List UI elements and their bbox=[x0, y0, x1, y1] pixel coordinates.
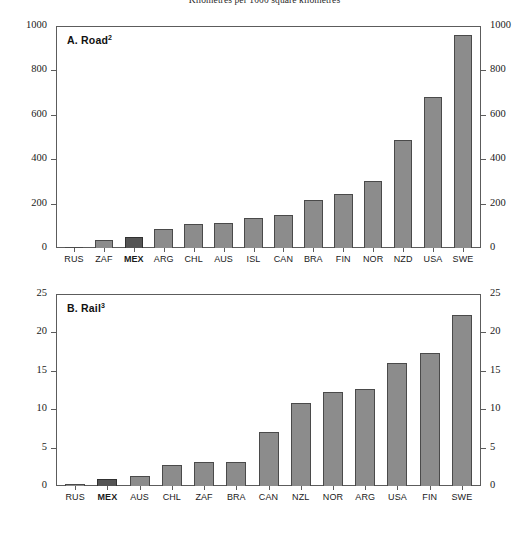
x-tick-label-road-usa: USA bbox=[418, 254, 448, 264]
bar-road-chl bbox=[184, 224, 203, 248]
bar-road-mex bbox=[125, 237, 144, 248]
y-tick-label-road-left-800: 800 bbox=[31, 64, 47, 75]
x-axis-labels-road: RUSZAFMEXARGCHLAUSISLCANBRAFINNORNZDUSAS… bbox=[56, 248, 481, 264]
bar-slot bbox=[119, 26, 149, 248]
x-tick-mark bbox=[164, 248, 165, 252]
y-tick-label-rail-right-15: 15 bbox=[490, 365, 501, 376]
x-tick-mark bbox=[236, 486, 237, 490]
bar-road-arg bbox=[154, 229, 173, 248]
x-tick-mark bbox=[224, 248, 225, 252]
bar-slot bbox=[418, 26, 448, 248]
bar-road-isl bbox=[244, 218, 263, 248]
bar-slot bbox=[317, 294, 349, 486]
y-tick-label-rail-right-20: 20 bbox=[490, 326, 501, 337]
y-tick-mark-right bbox=[481, 70, 486, 71]
y-tick-label-rail-right-10: 10 bbox=[490, 403, 501, 414]
bar-slot bbox=[149, 26, 179, 248]
x-tick-mark bbox=[172, 486, 173, 490]
x-tick-label-rail-nzl: NZL bbox=[285, 492, 317, 502]
bar-road-zaf bbox=[95, 240, 114, 248]
x-tick-label-rail-rus: RUS bbox=[59, 492, 91, 502]
bar-road-nor bbox=[364, 181, 383, 248]
x-tick-label-rail-can: CAN bbox=[252, 492, 284, 502]
x-tick-mark bbox=[75, 486, 76, 490]
x-tick-label-road-arg: ARG bbox=[149, 254, 179, 264]
x-tick-mark bbox=[204, 486, 205, 490]
bar-slot bbox=[381, 294, 413, 486]
x-tick-mark bbox=[283, 248, 284, 252]
x-tick-label-road-can: CAN bbox=[268, 254, 298, 264]
y-tick-label-rail-right-25: 25 bbox=[490, 288, 501, 299]
y-tick-label-rail-left-20: 20 bbox=[37, 326, 48, 337]
y-tick-mark-left bbox=[51, 115, 56, 116]
y-tick-label-road-right-600: 600 bbox=[490, 109, 506, 120]
bar-rail-aus bbox=[130, 476, 150, 486]
x-tick-mark bbox=[365, 486, 366, 490]
y-tick-label-road-left-1000: 1000 bbox=[26, 20, 47, 31]
bar-rail-chl bbox=[162, 465, 182, 487]
figure-super-title: Kilometres per 1000 square kilometres bbox=[0, 0, 529, 5]
x-tick-mark bbox=[333, 486, 334, 490]
bar-slot bbox=[298, 26, 328, 248]
x-tick-label-rail-nor: NOR bbox=[317, 492, 349, 502]
x-tick-label-rail-swe: SWE bbox=[446, 492, 478, 502]
x-tick-mark bbox=[403, 248, 404, 252]
x-tick-label-rail-fin: FIN bbox=[414, 492, 446, 502]
x-tick-label-rail-chl: CHL bbox=[156, 492, 188, 502]
bar-group-rail bbox=[56, 294, 481, 486]
bar-slot bbox=[285, 294, 317, 486]
x-tick-label-rail-mex: MEX bbox=[91, 492, 123, 502]
bar-rail-zaf bbox=[194, 462, 214, 486]
x-tick-label-rail-usa: USA bbox=[381, 492, 413, 502]
x-tick-label-road-bra: BRA bbox=[298, 254, 328, 264]
x-tick-mark bbox=[107, 486, 108, 490]
bar-slot bbox=[156, 294, 188, 486]
bar-road-usa bbox=[424, 97, 443, 248]
bar-slot bbox=[239, 26, 269, 248]
bar-rail-usa bbox=[387, 363, 407, 486]
x-tick-mark bbox=[462, 486, 463, 490]
bar-road-bra bbox=[304, 200, 323, 248]
bar-slot bbox=[59, 26, 89, 248]
bar-rail-mex bbox=[97, 479, 117, 486]
bar-slot bbox=[123, 294, 155, 486]
x-tick-mark bbox=[373, 248, 374, 252]
bar-slot bbox=[446, 294, 478, 486]
x-tick-mark bbox=[343, 248, 344, 252]
bar-slot bbox=[188, 294, 220, 486]
y-tick-mark-left bbox=[51, 332, 56, 333]
bar-slot bbox=[59, 294, 91, 486]
y-tick-mark-right bbox=[481, 371, 486, 372]
x-tick-mark bbox=[134, 248, 135, 252]
bar-slot bbox=[89, 26, 119, 248]
bar-slot bbox=[448, 26, 478, 248]
bar-rail-nor bbox=[323, 392, 343, 486]
figure-root: Kilometres per 1000 square kilometres A.… bbox=[0, 0, 529, 544]
bar-slot bbox=[388, 26, 418, 248]
y-tick-mark-left bbox=[51, 159, 56, 160]
bar-slot bbox=[209, 26, 239, 248]
bar-slot bbox=[220, 294, 252, 486]
y-tick-mark-right bbox=[481, 115, 486, 116]
bar-slot bbox=[349, 294, 381, 486]
bar-road-can bbox=[274, 215, 293, 248]
x-tick-mark bbox=[74, 248, 75, 252]
bar-road-fin bbox=[334, 194, 353, 248]
x-tick-label-rail-bra: BRA bbox=[220, 492, 252, 502]
bar-road-aus bbox=[214, 223, 233, 248]
x-tick-label-road-nor: NOR bbox=[358, 254, 388, 264]
x-tick-mark bbox=[269, 486, 270, 490]
y-tick-label-rail-right-5: 5 bbox=[490, 442, 495, 453]
bar-slot bbox=[179, 26, 209, 248]
bar-slot bbox=[414, 294, 446, 486]
x-tick-label-road-mex: MEX bbox=[119, 254, 149, 264]
bar-slot bbox=[328, 26, 358, 248]
x-tick-label-road-swe: SWE bbox=[448, 254, 478, 264]
bar-slot bbox=[252, 294, 284, 486]
y-tick-mark-right bbox=[481, 448, 486, 449]
y-tick-label-road-left-0: 0 bbox=[42, 242, 47, 253]
bar-slot bbox=[268, 26, 298, 248]
bar-rail-bra bbox=[226, 462, 246, 486]
x-tick-mark bbox=[104, 248, 105, 252]
bar-road-nzd bbox=[394, 140, 413, 248]
